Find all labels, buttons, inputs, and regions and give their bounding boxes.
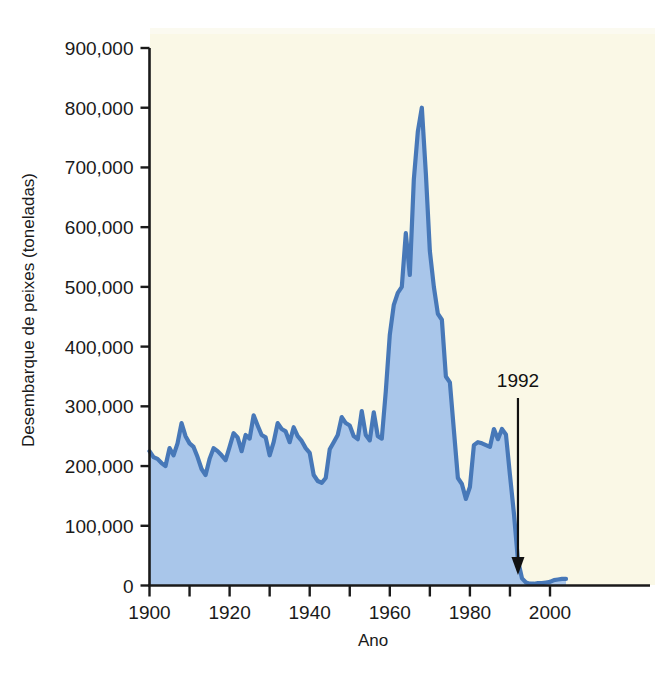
y-axis-tick-label: 200,000	[65, 456, 134, 477]
x-axis-tick-label: 1900	[128, 602, 170, 623]
y-axis-tick-label: 800,000	[65, 98, 134, 119]
x-axis-tick-label: 2000	[529, 602, 571, 623]
x-axis-tick-label: 1940	[289, 602, 331, 623]
y-axis-tick-label: 700,000	[65, 157, 134, 178]
x-axis-tick-label: 1960	[369, 602, 411, 623]
annotation-label: 1992	[497, 370, 539, 391]
y-axis-tick-label: 400,000	[65, 337, 134, 358]
figure-container: 0100,000200,000300,000400,000500,000600,…	[0, 0, 655, 678]
y-axis-tick-label: 500,000	[65, 277, 134, 298]
line-area-chart: 0100,000200,000300,000400,000500,000600,…	[0, 0, 655, 678]
y-axis-title: Desembarque de peixes (toneladas)	[19, 173, 38, 447]
y-axis-tick-label: 300,000	[65, 396, 134, 417]
x-axis-tick-labels: 190019201940196019802000	[128, 602, 571, 623]
y-axis-tick-label: 900,000	[65, 38, 134, 59]
area-fill	[150, 108, 567, 586]
x-axis-ticks	[150, 586, 551, 597]
x-axis-tick-label: 1920	[208, 602, 250, 623]
y-axis-ticks	[141, 48, 150, 586]
x-axis-title: Ano	[358, 631, 388, 650]
y-axis-tick-label: 100,000	[65, 516, 134, 537]
x-axis-tick-label: 1980	[449, 602, 491, 623]
y-axis-tick-labels: 0100,000200,000300,000400,000500,000600,…	[65, 38, 134, 597]
y-axis-tick-label: 0	[123, 576, 134, 597]
y-axis-tick-label: 600,000	[65, 217, 134, 238]
